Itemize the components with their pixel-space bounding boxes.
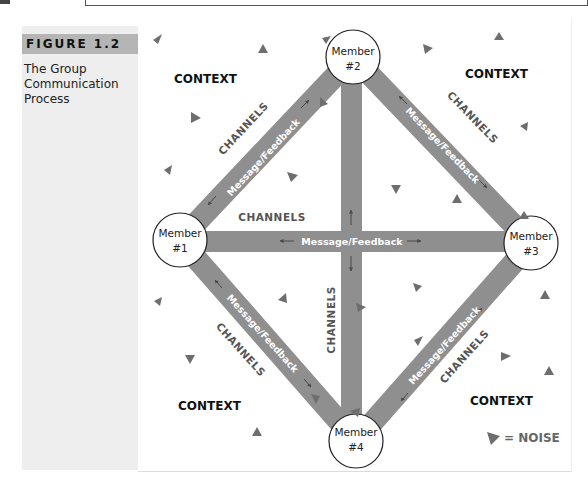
noise-icon	[252, 427, 262, 436]
channels-label-2-4: CHANNELS	[325, 286, 337, 354]
noise-icon	[391, 185, 401, 194]
noise-icon	[258, 44, 268, 53]
member-2: Member #2	[326, 30, 380, 84]
legend: = NOISE	[487, 431, 560, 445]
channels-label-2-3: CHANNELS	[445, 89, 501, 146]
member-3: Member #3	[504, 216, 558, 270]
noise-icon	[154, 297, 162, 306]
noise-icon	[501, 352, 511, 361]
noise-icon	[544, 366, 554, 375]
context-label-bottom-left: CONTEXT	[178, 399, 242, 413]
channels-label-1-3: CHANNELS	[238, 211, 306, 223]
svg-text:Member: Member	[158, 227, 202, 239]
context-label-bottom-right: CONTEXT	[470, 394, 534, 408]
noise-icon	[519, 211, 529, 219]
member-1: Member #1	[153, 213, 207, 267]
noise-icon	[191, 112, 201, 123]
noise-icon	[413, 283, 422, 292]
noise-icon	[540, 290, 550, 299]
noise-icon	[164, 165, 172, 175]
svg-text:Member: Member	[509, 230, 553, 242]
svg-text:#3: #3	[523, 245, 538, 257]
message-label-1-4: Message/Feedback	[225, 292, 301, 375]
svg-text:#2: #2	[345, 60, 360, 72]
member-4: Member #4	[329, 414, 383, 468]
noise-icon	[185, 355, 195, 364]
message-label-1-3: Message/Feedback	[301, 236, 403, 247]
svg-text:#1: #1	[172, 242, 187, 254]
context-label-top-left: CONTEXT	[174, 72, 238, 86]
legend-noise-label: = NOISE	[504, 431, 560, 445]
svg-text:#4: #4	[348, 441, 364, 453]
noise-icon	[423, 44, 433, 54]
noise-icon	[278, 293, 287, 303]
noise-icon	[153, 34, 162, 44]
context-label-top-right: CONTEXT	[465, 67, 529, 81]
noise-icon	[494, 32, 504, 40]
noise-icon	[414, 336, 423, 346]
communication-diagram: Message/Feedback Message/Feedback Messag…	[0, 0, 588, 485]
noise-icon	[287, 172, 298, 182]
noise-legend-icon	[487, 432, 500, 445]
noise-icon	[520, 122, 528, 131]
svg-text:Member: Member	[331, 45, 375, 57]
noise-icon	[452, 194, 462, 203]
svg-text:Member: Member	[334, 426, 378, 438]
